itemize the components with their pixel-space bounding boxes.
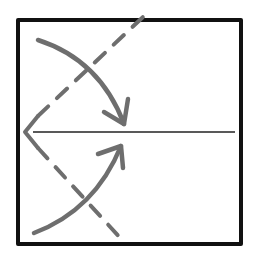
upper-fold-arrow <box>38 40 124 124</box>
origami-diagram <box>0 0 259 258</box>
